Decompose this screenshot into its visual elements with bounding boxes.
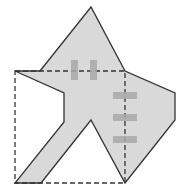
tape-strip	[71, 60, 78, 80]
tape-strip	[90, 60, 97, 80]
tape-strip	[113, 136, 137, 143]
shaded-polygon	[15, 7, 175, 183]
tape-strip	[113, 92, 137, 99]
folding-diagram	[0, 0, 188, 193]
tape-strip	[113, 114, 137, 121]
